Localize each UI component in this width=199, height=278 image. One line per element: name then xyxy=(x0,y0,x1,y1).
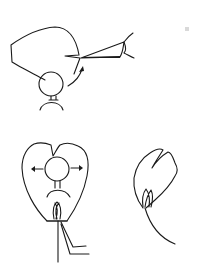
side-flower-outline xyxy=(134,149,177,208)
left-arrowhead xyxy=(31,166,35,172)
center-stalk xyxy=(55,181,60,188)
tube-dark-edge xyxy=(82,56,120,58)
faint-mark xyxy=(185,27,189,31)
side-stamens xyxy=(143,189,153,207)
bottom-right-panel xyxy=(134,149,177,244)
stamens xyxy=(53,202,61,219)
pollination-diagram xyxy=(0,0,199,278)
disk-circle xyxy=(39,72,63,96)
leader-line-2 xyxy=(61,224,89,254)
center-arc xyxy=(47,190,70,197)
flower-head-outline xyxy=(11,27,80,80)
pollinator-legs xyxy=(124,33,134,58)
right-arrowhead xyxy=(79,165,83,171)
tube-structure xyxy=(81,42,124,58)
arrowhead xyxy=(79,66,84,72)
side-stem xyxy=(145,208,175,244)
leader-line-1 xyxy=(61,222,86,247)
lower-arc xyxy=(40,103,63,111)
disk-stalk xyxy=(49,96,58,100)
top-panel xyxy=(11,27,189,110)
center-circle xyxy=(45,157,69,181)
bottom-left-panel xyxy=(22,143,89,262)
